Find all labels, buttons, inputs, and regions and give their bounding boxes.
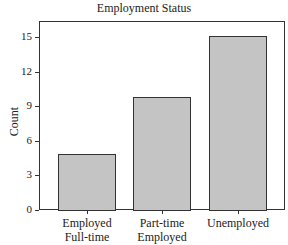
bar	[58, 154, 116, 211]
y-tick-label: 12	[12, 65, 32, 77]
x-tick-label-line: Employed	[47, 216, 127, 230]
y-tick-label: 3	[12, 168, 32, 180]
x-tick	[87, 210, 88, 214]
bar	[209, 36, 267, 211]
y-tick-label: 0	[12, 203, 32, 215]
y-tick	[35, 141, 39, 142]
y-tick-label: 6	[12, 134, 32, 146]
x-tick-label: Part-timeEmployed	[122, 216, 202, 244]
y-tick	[35, 210, 39, 211]
x-tick-label: Unemployed	[198, 216, 278, 244]
x-tick-label: EmployedFull-time	[47, 216, 127, 244]
x-tick-label-line: Full-time	[47, 230, 127, 244]
x-tick	[238, 210, 239, 214]
y-tick	[35, 72, 39, 73]
x-tick-label-line: Employed	[122, 230, 202, 244]
x-tick-label-line	[198, 230, 278, 244]
y-tick-label: 15	[12, 30, 32, 42]
bar	[133, 97, 191, 211]
x-tick-label-line: Part-time	[122, 216, 202, 230]
x-tick-label-line: Unemployed	[198, 216, 278, 230]
chart-title: Employment Status	[0, 1, 288, 16]
y-tick-label: 9	[12, 99, 32, 111]
y-tick	[35, 106, 39, 107]
y-tick	[35, 37, 39, 38]
y-tick	[35, 175, 39, 176]
x-tick	[162, 210, 163, 214]
